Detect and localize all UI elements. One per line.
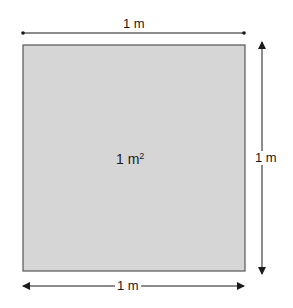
right-height-label: 1 m: [253, 151, 279, 165]
bottom-width-label: 1 m: [115, 279, 141, 293]
top-left-dot-icon: [21, 31, 25, 35]
top-right-dot-icon: [242, 31, 246, 35]
area-label-base: 1 m: [116, 151, 139, 167]
top-width-label: 1 m: [123, 17, 145, 31]
area-label-exponent: 2: [139, 151, 144, 161]
square-diagram: [0, 0, 293, 308]
area-label: 1 m2: [116, 152, 144, 166]
